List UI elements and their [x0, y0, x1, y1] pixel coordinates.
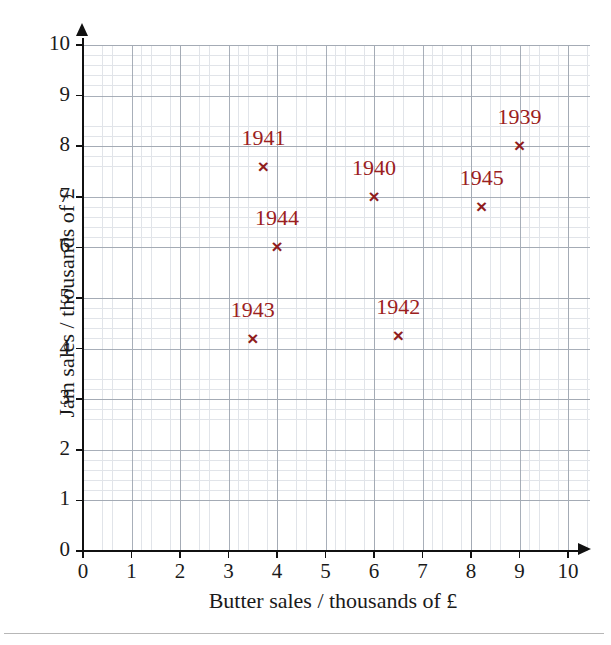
x-tick-label-10: 10: [548, 560, 588, 583]
cross-marker-icon: ×: [245, 331, 261, 347]
cross-marker-icon: ×: [390, 328, 406, 344]
x-axis-arrow-icon: [578, 543, 591, 555]
data-point-label-1943: 1943: [217, 297, 289, 323]
cross-marker-icon: ×: [512, 138, 528, 154]
cross-marker-icon: ×: [366, 189, 382, 205]
cross-marker-icon: ×: [474, 199, 490, 215]
scatter-plot-figure: 012345678910 012345678910 Butter sales /…: [0, 0, 611, 645]
x-tick-6: [373, 551, 375, 558]
data-point-label-1944: 1944: [241, 205, 313, 231]
y-axis-line: [82, 38, 84, 552]
y-axis-title: Jam sales / thousands of £: [54, 68, 80, 538]
x-tick-7: [422, 551, 424, 558]
x-tick-label-9: 9: [500, 560, 540, 583]
x-tick-10: [567, 551, 569, 558]
x-tick-0: [82, 551, 84, 558]
data-point-label-1941: 1941: [227, 125, 299, 151]
x-tick-5: [325, 551, 327, 558]
y-tick-label-0: 0: [28, 538, 70, 561]
cross-marker-icon: ×: [269, 239, 285, 255]
x-axis-title: Butter sales / thousands of £: [83, 588, 583, 614]
y-tick-0: [76, 550, 83, 552]
y-tick-label-10: 10: [28, 32, 70, 55]
x-tick-label-6: 6: [354, 560, 394, 583]
x-tick-4: [276, 551, 278, 558]
x-tick-1: [131, 551, 133, 558]
x-tick-label-1: 1: [112, 560, 152, 583]
x-axis-line: [83, 550, 580, 552]
data-point-label-1939: 1939: [484, 104, 556, 130]
x-tick-label-5: 5: [306, 560, 346, 583]
x-tick-2: [179, 551, 181, 558]
data-point-label-1945: 1945: [446, 165, 518, 191]
x-tick-label-8: 8: [451, 560, 491, 583]
x-tick-3: [228, 551, 230, 558]
footer-divider: [4, 633, 604, 634]
x-tick-label-3: 3: [209, 560, 249, 583]
x-tick-label-7: 7: [403, 560, 443, 583]
y-tick-10: [76, 44, 83, 46]
x-tick-label-2: 2: [160, 560, 200, 583]
x-tick-8: [470, 551, 472, 558]
x-tick-label-0: 0: [63, 560, 103, 583]
cross-marker-icon: ×: [255, 159, 271, 175]
data-point-label-1940: 1940: [338, 155, 410, 181]
x-tick-label-4: 4: [257, 560, 297, 583]
data-point-label-1942: 1942: [362, 294, 434, 320]
x-tick-9: [519, 551, 521, 558]
y-axis-arrow-icon: [76, 23, 88, 36]
